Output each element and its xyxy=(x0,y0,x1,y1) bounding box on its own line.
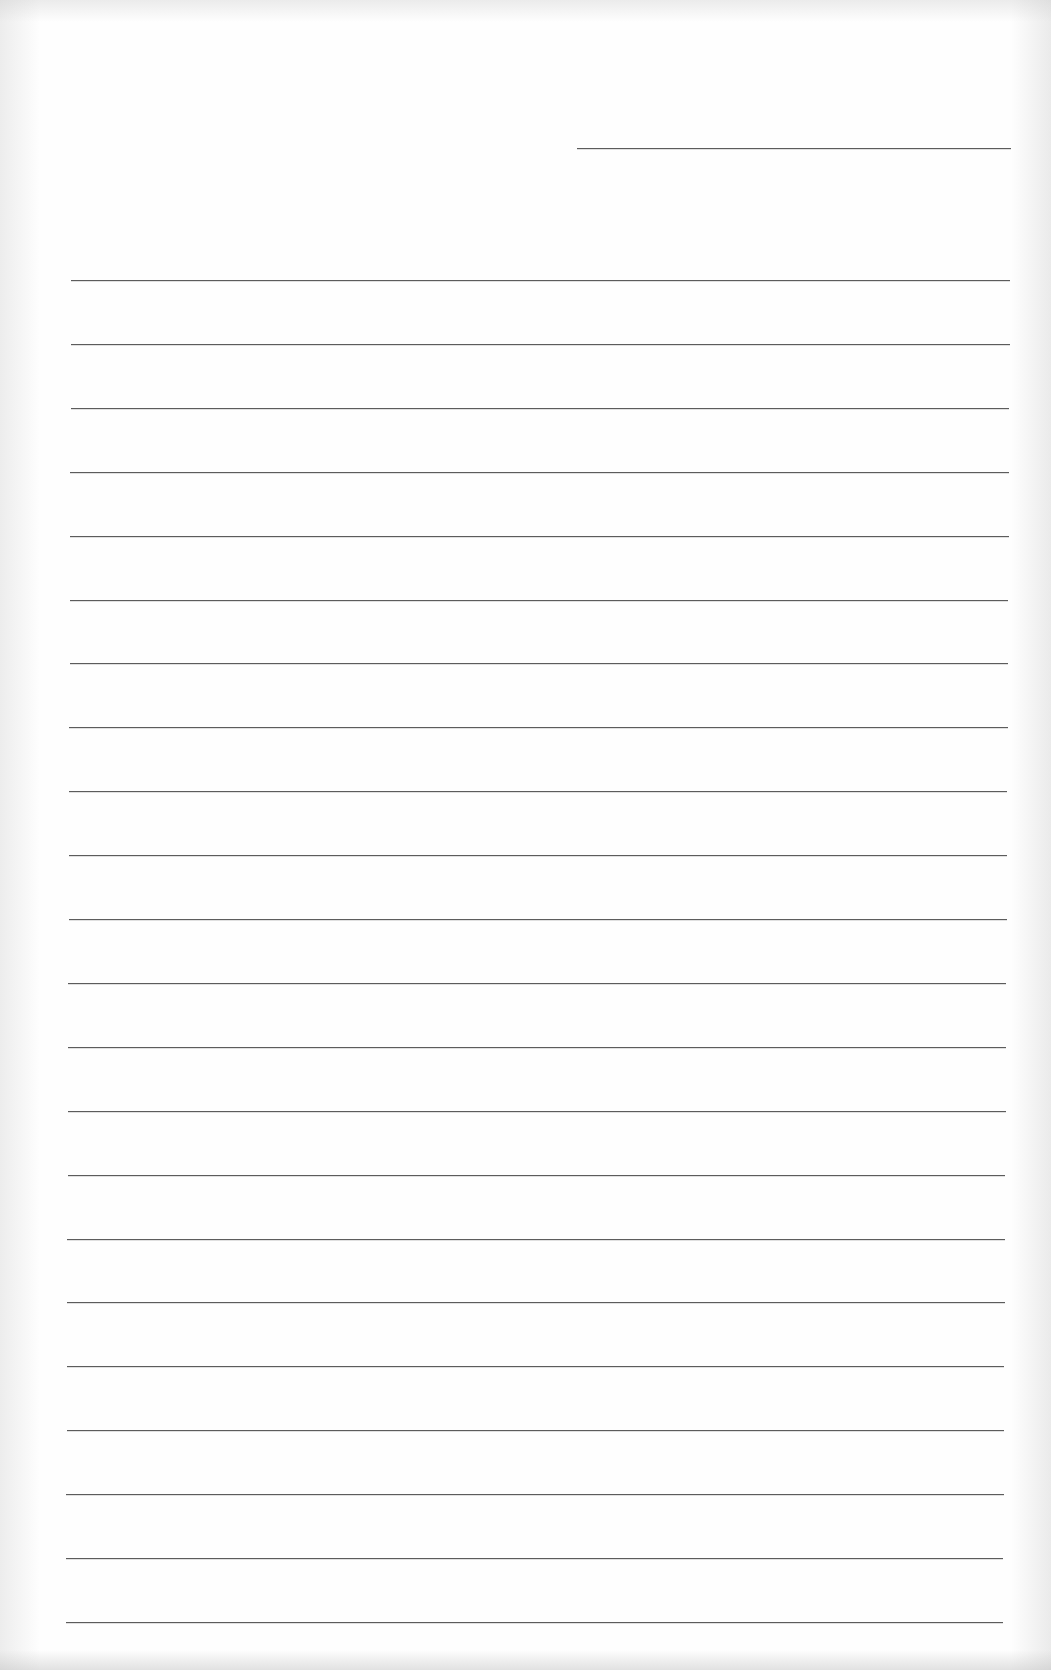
ruled-line xyxy=(67,1430,1004,1431)
header-name-line xyxy=(577,148,1011,149)
ruled-line xyxy=(71,280,1010,281)
ruled-line xyxy=(66,1558,1003,1559)
ruled-line xyxy=(71,344,1010,345)
lined-paper-page xyxy=(0,0,1051,1670)
ruled-line xyxy=(69,727,1007,728)
ruled-line xyxy=(68,1047,1006,1048)
ruled-line xyxy=(68,1175,1006,1176)
ruled-line xyxy=(66,1494,1003,1495)
ruled-line xyxy=(69,791,1007,792)
ruled-line xyxy=(66,1622,1003,1623)
ruled-line xyxy=(67,1239,1005,1240)
ruled-line xyxy=(70,536,1009,537)
ruled-line xyxy=(69,855,1007,856)
ruled-line xyxy=(68,983,1006,984)
ruled-line xyxy=(70,663,1008,664)
ruled-line xyxy=(67,1366,1004,1367)
ruled-line xyxy=(70,472,1009,473)
ruled-line xyxy=(70,600,1009,601)
ruled-line xyxy=(69,919,1007,920)
ruled-line xyxy=(67,1302,1004,1303)
ruled-line xyxy=(71,408,1010,409)
ruled-line xyxy=(68,1111,1006,1112)
